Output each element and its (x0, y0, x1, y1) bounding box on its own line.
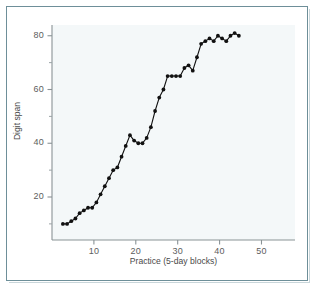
x-tick-label: 20 (123, 246, 149, 256)
x-tick-label: 40 (207, 246, 233, 256)
y-tick-label: 20 (18, 191, 44, 201)
y-tick-label: 80 (18, 30, 44, 40)
x-tick-label: 50 (248, 246, 274, 256)
figure-screenshot: 20406080 1020304050 Practice (5-day bloc… (0, 0, 322, 293)
x-tick-label: 10 (81, 246, 107, 256)
x-tick-label: 30 (165, 246, 191, 256)
data-markers (61, 31, 241, 226)
x-axis-label: Practice (5-day blocks) (52, 256, 295, 266)
y-axis-label: Digit span (12, 91, 22, 151)
